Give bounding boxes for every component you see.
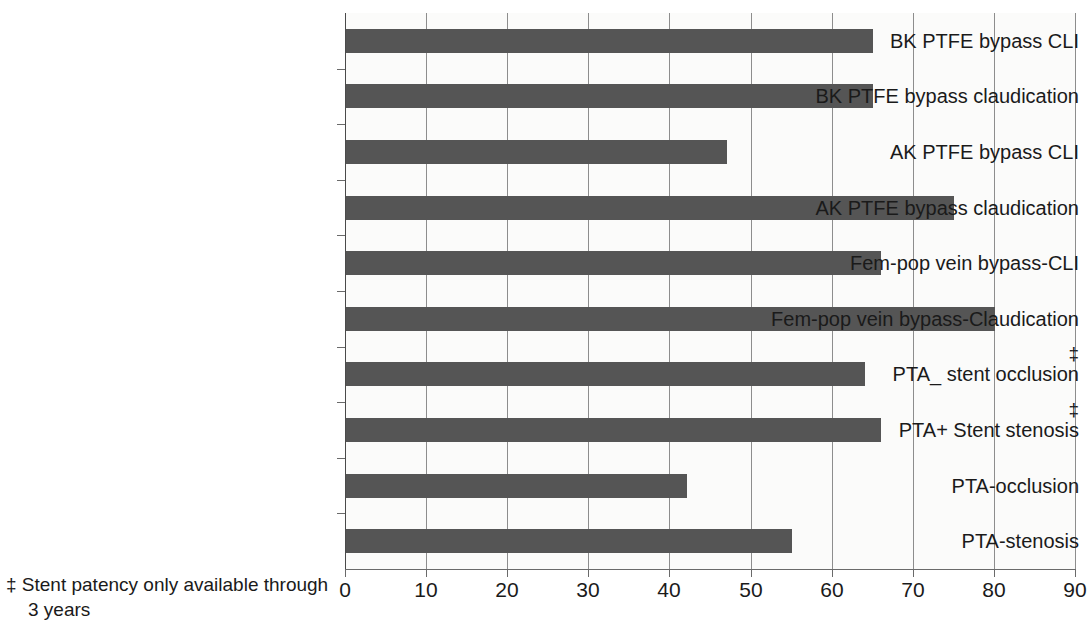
x-tick-label-20: 20 [477,578,537,602]
y-tick-4 [337,291,345,292]
category-label-bk-ptfe-bypass-cli: BK PTFE bypass CLI [752,30,1088,52]
category-label-pta-stenosis: PTA-stenosis [752,530,1088,552]
x-axis-line [345,569,1076,570]
category-label-pta-occlusion: PTA-occlusion [752,475,1088,497]
x-tick-label-50: 50 [721,578,781,602]
y-tick-6 [337,402,345,403]
bar-pta-occlusion [346,474,687,498]
footnote: ‡ Stent patency only available through 3… [6,572,351,622]
category-label-bk-ptfe-bypass-claudication: BK PTFE bypass claudication [752,85,1088,107]
y-tick-3 [337,235,345,236]
y-tick-1 [337,124,345,125]
category-label-text: PTA+ Stent stenosis [899,419,1079,441]
x-tickmark-20 [507,570,508,577]
bar-ak-ptfe-bypass-cli [346,140,727,164]
x-tickmark-30 [588,570,589,577]
y-tick-2 [337,180,345,181]
x-tickmark-50 [751,570,752,577]
category-label-text: PTA_ stent occlusion [893,363,1079,385]
category-label-fem-pop-vein-bypass-claudication: Fem-pop vein bypass-Claudication [752,308,1088,330]
y-tick-8 [337,513,345,514]
x-tickmark-70 [913,570,914,577]
footnote-line-1: ‡ Stent patency only available through [6,574,328,595]
bar-pta-stenosis [346,529,792,553]
x-tick-label-10: 10 [396,578,456,602]
y-tick-7 [337,458,345,459]
y-tick-0 [337,69,345,70]
x-tickmark-90 [1075,570,1076,577]
category-label-ak-ptfe-bypass-cli: AK PTFE bypass CLI [752,141,1088,163]
x-tick-label-70: 70 [883,578,943,602]
category-label-ak-ptfe-bypass-claudication: AK PTFE bypass claudication [752,197,1088,219]
category-label-pta-stent-occlusion: ‡PTA_ stent occlusion [752,363,1088,385]
bar-chart: 0 10 20 30 40 50 60 70 80 90 BK PTFE byp… [0,0,1088,631]
x-tickmark-10 [426,570,427,577]
footnote-line-2: 3 years [6,597,351,622]
dagger-icon-pta-stent-occlusion: ‡ [1068,344,1079,363]
x-tick-label-30: 30 [558,578,618,602]
x-tickmark-40 [669,570,670,577]
x-tick-label-60: 60 [802,578,862,602]
x-tickmark-60 [832,570,833,577]
y-tick-5 [337,347,345,348]
category-label-pta-stent-stenosis: ‡PTA+ Stent stenosis [752,419,1088,441]
x-tickmark-80 [994,570,995,577]
x-tick-label-90: 90 [1045,578,1088,602]
dagger-icon-pta-stent-stenosis: ‡ [1068,400,1079,419]
x-tick-label-40: 40 [639,578,699,602]
category-label-fem-pop-vein-bypass-cli: Fem-pop vein bypass-CLI [752,252,1088,274]
x-tick-label-80: 80 [964,578,1024,602]
